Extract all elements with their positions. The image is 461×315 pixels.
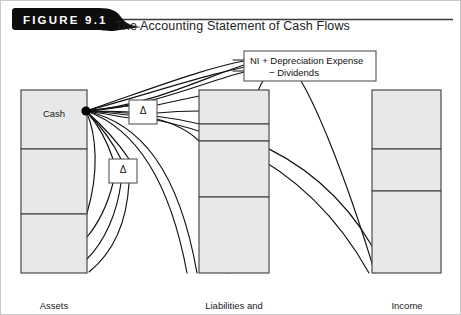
liabilities-segment-3[interactable] xyxy=(199,141,269,197)
delta-symbol-1: Δ xyxy=(132,105,154,116)
delta-symbol-2: Δ xyxy=(112,164,134,175)
columns-group xyxy=(21,90,441,273)
assets-segment-2[interactable] xyxy=(21,149,87,214)
income-segment-1[interactable] xyxy=(372,90,441,149)
column-label-income-line-1: Income xyxy=(367,300,447,312)
column-label-liabilities-line-1: Liabilities and xyxy=(194,300,274,312)
figure-diagram-canvas xyxy=(1,1,461,315)
figure-container: FIGURE 9.1 The Accounting Statement of C… xyxy=(0,0,461,315)
figure-title: The Accounting Statement of Cash Flows xyxy=(115,19,350,33)
curve-delta1-out-b xyxy=(157,111,199,113)
cash-box-label: Cash xyxy=(32,108,76,119)
column-income-statement[interactable] xyxy=(372,90,441,273)
column-label-liabilities-equity: Liabilities and Equity xyxy=(194,277,274,315)
assets-segment-3[interactable] xyxy=(21,214,87,273)
income-segment-3[interactable] xyxy=(372,191,441,273)
liabilities-segment-1[interactable] xyxy=(199,90,269,124)
income-segment-2[interactable] xyxy=(372,149,441,191)
column-label-assets-line-1: Assets xyxy=(21,300,87,312)
liabilities-segment-4[interactable] xyxy=(199,197,269,273)
column-label-income-statement: Income Statement xyxy=(367,277,447,315)
callout-line-2: − Dividends xyxy=(269,67,319,79)
curve-fan-to-liab-2 xyxy=(86,111,187,273)
cash-node-dot[interactable] xyxy=(81,106,90,115)
callout-line-1: NI + Depreciation Expense xyxy=(250,55,363,67)
figure-number-label: FIGURE 9.1 xyxy=(23,14,108,26)
curve-delta2-out-a xyxy=(87,183,113,237)
liabilities-segment-2[interactable] xyxy=(199,124,269,141)
column-label-assets: Assets xyxy=(21,277,87,315)
assets-segment-cash[interactable] xyxy=(21,90,87,149)
column-liabilities-equity[interactable] xyxy=(199,90,269,273)
